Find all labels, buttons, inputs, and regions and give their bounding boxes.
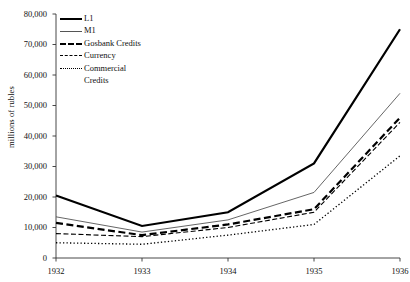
chart-legend: L1M1Gosbank CreditsCurrencyCommercial Cr… [60,12,141,86]
legend-item-label: M1 [83,24,96,36]
legend-swatch-currency-icon [60,49,82,61]
legend-swatch-m1-icon [60,24,82,36]
legend-swatch-commercial-credits-icon [60,62,82,74]
legend-item[interactable]: Commercial Credits [60,62,141,87]
legend-item[interactable]: Gosbank Credits [60,37,141,49]
legend-item[interactable]: M1 [60,24,141,36]
legend-item-label: Commercial Credits [83,62,126,87]
line-chart: millions of rubles 010,00020,00030,00040… [0,0,410,282]
legend-swatch-gosbank-credits-icon [60,37,82,49]
legend-item-label: Gosbank Credits [83,37,141,49]
legend-item-label: L1 [83,12,93,24]
legend-item[interactable]: L1 [60,12,141,24]
legend-swatch-l1-icon [60,12,82,24]
series-line-commercial-credits [56,156,400,244]
legend-item-label: Currency [83,49,116,61]
legend-item[interactable]: Currency [60,49,141,61]
